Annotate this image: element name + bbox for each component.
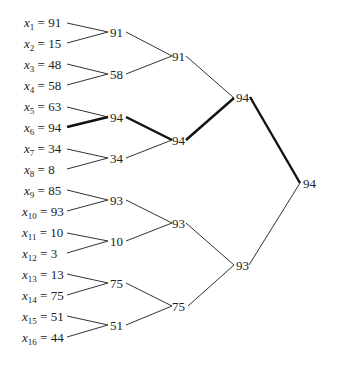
leaf-x3: x3 = 48 — [24, 58, 61, 76]
node-l1-8: 51 — [110, 319, 123, 332]
node-root: 94 — [303, 177, 316, 190]
leaf-x7: x7 = 34 — [24, 142, 61, 160]
node-l2-2: 94 — [172, 134, 185, 147]
node-l1-6: 10 — [110, 235, 123, 248]
leaf-x5: x5 = 63 — [24, 100, 61, 118]
leaf-x15: x15 = 51 — [22, 310, 64, 328]
leaf-x16: x16 = 44 — [22, 331, 64, 349]
tournament-tree-diagram: x1 = 91 x2 = 15 x3 = 48 x4 = 58 x5 = 63 … — [0, 0, 343, 366]
node-l1-7: 75 — [110, 277, 123, 290]
leaf-x13: x13 = 13 — [22, 268, 64, 286]
leaf-x12: x12 = 3 — [22, 247, 57, 265]
node-l2-3: 93 — [172, 217, 185, 230]
node-l3-1: 94 — [236, 91, 249, 104]
node-l1-4: 34 — [110, 152, 123, 165]
leaf-x10: x10 = 93 — [22, 205, 64, 223]
leaf-x11: x11 = 10 — [22, 226, 63, 244]
node-l1-1: 91 — [110, 26, 123, 39]
leaf-x14: x14 = 75 — [22, 289, 64, 307]
leaf-x4: x4 = 58 — [24, 79, 61, 97]
leaf-x8: x8 = 8 — [24, 163, 55, 181]
leaf-x9: x9 = 85 — [24, 184, 61, 202]
node-l2-1: 91 — [172, 50, 185, 63]
node-l1-2: 58 — [110, 68, 123, 81]
node-l3-2: 93 — [236, 259, 249, 272]
leaf-x2: x2 = 15 — [24, 37, 61, 55]
leaf-x1: x1 = 91 — [24, 16, 61, 34]
node-l1-3: 94 — [110, 111, 123, 124]
node-l2-4: 75 — [172, 300, 185, 313]
leaf-x6: x6 = 94 — [24, 121, 61, 139]
node-l1-5: 93 — [110, 194, 123, 207]
